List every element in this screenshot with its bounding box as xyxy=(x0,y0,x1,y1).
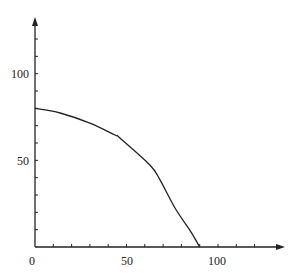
chart: 0 50 100 50 100 xyxy=(0,0,297,273)
y-tick-label-50: 50 xyxy=(17,154,29,168)
data-curve xyxy=(35,108,200,247)
x-axis-arrow-icon xyxy=(276,244,285,250)
y-axis-arrow-icon xyxy=(32,17,38,26)
x-tick-label-0: 0 xyxy=(29,254,35,268)
x-tick-label-50: 50 xyxy=(121,254,133,268)
axes xyxy=(35,22,280,247)
x-tick-label-100: 100 xyxy=(208,254,226,268)
y-tick-label-100: 100 xyxy=(11,67,29,81)
